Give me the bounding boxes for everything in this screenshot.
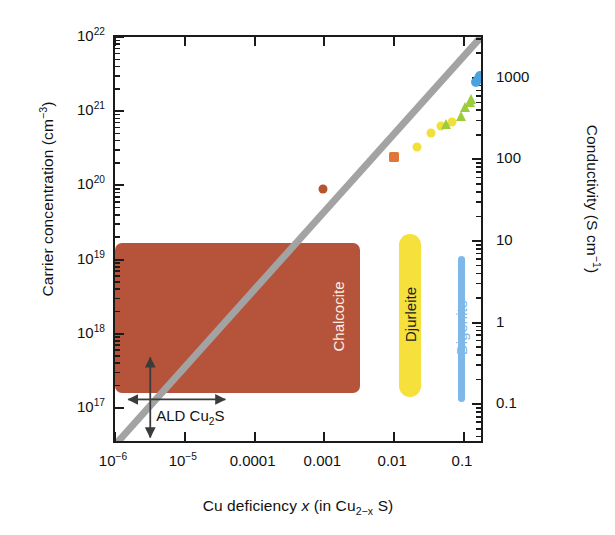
data-point xyxy=(441,119,451,129)
axis-tick xyxy=(115,214,120,216)
plot-area: Chalcocite Djurleite Digenite ALD Cu2S xyxy=(113,35,483,443)
axis-tick xyxy=(463,432,465,441)
axis-tick xyxy=(115,362,120,364)
x-axis-title-b: (in Cu xyxy=(309,497,355,514)
axis-tick xyxy=(476,346,481,348)
axis-tick xyxy=(476,244,481,246)
axis-tick xyxy=(254,37,256,46)
axis-tick xyxy=(115,196,120,198)
axis-tick xyxy=(476,171,481,173)
axis-tick xyxy=(476,340,481,342)
axis-tick xyxy=(476,95,481,97)
axis-tick xyxy=(115,75,120,77)
x-axis-title-subscript: 2−x xyxy=(356,505,374,517)
y2-axis-title-suffix: ) xyxy=(584,268,601,273)
axis-tick xyxy=(476,183,481,185)
axis-tick xyxy=(115,311,120,313)
x-axis-title-c: S) xyxy=(373,497,393,514)
axis-tick xyxy=(476,109,481,111)
y-axis-tick-label: 1019 xyxy=(77,249,105,266)
axis-tick xyxy=(115,340,120,342)
axis-tick xyxy=(115,223,120,225)
secondary-y-axis-tick-label: 0.1 xyxy=(496,394,517,411)
axis-tick xyxy=(476,354,481,356)
axis-tick xyxy=(115,201,120,203)
axis-tick xyxy=(115,114,120,116)
axis-tick xyxy=(114,432,116,441)
axis-tick xyxy=(115,66,120,68)
axis-tick xyxy=(476,253,481,255)
y-axis-tick-label: 1022 xyxy=(77,27,105,44)
axis-tick xyxy=(323,37,325,46)
y2-axis-title-exponent: −1 xyxy=(591,256,603,268)
axis-tick xyxy=(476,421,481,423)
axis-tick xyxy=(115,336,120,338)
axis-tick xyxy=(476,162,481,164)
axis-tick xyxy=(115,188,120,190)
y2-axis-title-prefix: Conductivity (S cm xyxy=(584,125,601,256)
axis-tick xyxy=(476,428,481,430)
axis-tick xyxy=(115,140,120,142)
x-axis-tick-label: 0.001 xyxy=(304,452,342,469)
axis-tick xyxy=(115,333,124,335)
axis-tick xyxy=(115,127,120,129)
axis-tick xyxy=(476,265,481,267)
axis-tick xyxy=(115,407,124,409)
axis-tick xyxy=(476,258,481,260)
ald-label-a: ALD Cu xyxy=(156,407,209,424)
axis-tick xyxy=(115,298,120,300)
data-point xyxy=(466,94,476,104)
y-axis-title: Carrier concentration (cm−3) xyxy=(39,59,57,339)
axis-tick xyxy=(476,407,481,409)
x-axis-tick-label: 0.1 xyxy=(452,452,473,469)
axis-tick xyxy=(476,191,481,193)
x-axis-tick-label: 0.0001 xyxy=(230,452,276,469)
axis-tick xyxy=(115,118,120,120)
axis-tick xyxy=(115,281,120,283)
data-point xyxy=(389,152,399,162)
secondary-y-axis-title: Conductivity (S cm−1) xyxy=(583,59,601,339)
x-axis-tick-label: 10−5 xyxy=(169,452,197,469)
axis-tick xyxy=(476,416,481,418)
axis-tick xyxy=(476,364,481,366)
axis-tick xyxy=(115,262,120,264)
axis-tick xyxy=(476,134,481,136)
axis-tick xyxy=(114,37,116,46)
axis-tick xyxy=(115,88,120,90)
axis-tick xyxy=(476,379,481,381)
axis-tick xyxy=(115,192,120,194)
ald-annotation-arrows xyxy=(115,37,481,441)
axis-tick xyxy=(254,432,256,441)
axis-tick xyxy=(476,297,481,299)
axis-tick xyxy=(476,330,481,332)
axis-tick xyxy=(115,288,120,290)
axis-tick xyxy=(115,36,124,38)
figure: Carrier concentration (cm−3) Conductivit… xyxy=(0,0,615,535)
axis-tick xyxy=(115,236,120,238)
axis-tick xyxy=(476,411,481,413)
data-point xyxy=(413,142,422,151)
axis-tick xyxy=(472,322,481,324)
axis-tick xyxy=(476,102,481,104)
axis-tick xyxy=(115,59,120,61)
axis-tick xyxy=(115,259,124,261)
axis-tick xyxy=(476,166,481,168)
axis-tick xyxy=(476,216,481,218)
axis-tick xyxy=(115,385,120,387)
axis-tick xyxy=(115,149,120,151)
axis-tick xyxy=(476,283,481,285)
axis-tick xyxy=(323,432,325,441)
ald-label-b: S xyxy=(214,407,224,424)
axis-tick xyxy=(393,432,395,441)
secondary-y-axis-tick-label: 100 xyxy=(496,149,521,166)
axis-tick xyxy=(115,349,120,351)
axis-tick xyxy=(472,158,481,160)
axis-tick xyxy=(476,248,481,250)
data-point xyxy=(427,128,436,137)
axis-tick xyxy=(472,403,481,405)
axis-tick xyxy=(115,275,120,277)
axis-tick xyxy=(476,90,481,92)
x-axis-title-a: Cu deficiency xyxy=(203,497,302,514)
axis-tick xyxy=(115,122,120,124)
axis-tick xyxy=(115,133,120,135)
